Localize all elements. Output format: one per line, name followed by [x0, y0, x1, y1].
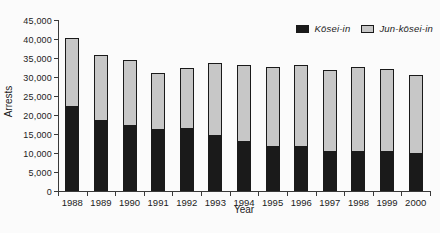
- bar-segment-jun-kosei-in: [94, 55, 108, 121]
- x-tick-mark: [201, 192, 202, 196]
- bar-segment-kosei-in: [323, 152, 337, 191]
- y-tick-mark: [54, 77, 58, 78]
- bar-segment-jun-kosei-in: [123, 60, 137, 126]
- x-tick-mark: [144, 192, 145, 196]
- y-tick-label: 15,000: [10, 130, 52, 140]
- x-tick-mark: [430, 192, 431, 196]
- y-tick-label: 45,000: [10, 16, 52, 26]
- bar-segment-jun-kosei-in: [237, 65, 251, 143]
- y-tick-mark: [54, 39, 58, 40]
- x-axis-line: [58, 191, 431, 192]
- bar-segment-jun-kosei-in: [323, 70, 337, 152]
- x-tick-mark: [115, 192, 116, 196]
- y-tick-mark: [54, 172, 58, 173]
- y-tick-label: 35,000: [10, 54, 52, 64]
- x-tick-mark: [287, 192, 288, 196]
- y-tick-label: 40,000: [10, 35, 52, 45]
- x-tick-mark: [230, 192, 231, 196]
- y-tick-label: 30,000: [10, 73, 52, 83]
- bar-segment-kosei-in: [294, 147, 308, 191]
- bar-segment-kosei-in: [351, 152, 365, 191]
- arrests-stacked-bar-chart: Kōsei-in Jun-kōsei-in Arrests 05,00010,0…: [0, 0, 440, 233]
- y-tick-label: 0: [10, 187, 52, 197]
- bar-segment-jun-kosei-in: [65, 38, 79, 108]
- y-tick-mark: [54, 115, 58, 116]
- bar-segment-jun-kosei-in: [380, 69, 394, 152]
- y-tick-mark: [54, 153, 58, 154]
- x-axis-title: Year: [184, 204, 304, 215]
- bar-segment-kosei-in: [123, 126, 137, 191]
- bar-segment-kosei-in: [266, 147, 280, 191]
- bar-segment-jun-kosei-in: [208, 63, 222, 136]
- x-tick-label-year: 1991: [144, 197, 173, 208]
- x-tick-mark: [258, 192, 259, 196]
- bar-segment-jun-kosei-in: [180, 68, 194, 130]
- bar-segment-kosei-in: [380, 152, 394, 191]
- bar-segment-kosei-in: [94, 121, 108, 191]
- bar-segment-kosei-in: [237, 142, 251, 191]
- bar-segment-jun-kosei-in: [409, 75, 423, 154]
- bar-segment-kosei-in: [180, 129, 194, 191]
- y-tick-label: 25,000: [10, 92, 52, 102]
- y-tick-label: 5,000: [10, 168, 52, 178]
- x-tick-mark: [401, 192, 402, 196]
- y-tick-label: 20,000: [10, 111, 52, 121]
- x-tick-label-year: 2000: [401, 197, 430, 208]
- x-tick-label-year: 1990: [115, 197, 144, 208]
- x-tick-label-year: 1998: [344, 197, 373, 208]
- y-tick-mark: [54, 20, 58, 21]
- y-tick-mark: [54, 96, 58, 97]
- x-tick-mark: [344, 192, 345, 196]
- bar-segment-kosei-in: [208, 136, 222, 191]
- bar-segment-jun-kosei-in: [151, 73, 165, 130]
- x-tick-mark: [87, 192, 88, 196]
- y-tick-label: 10,000: [10, 149, 52, 159]
- bar-segment-kosei-in: [65, 107, 79, 191]
- x-tick-label-year: 1988: [58, 197, 87, 208]
- x-tick-label-year: 1997: [315, 197, 344, 208]
- bar-segment-kosei-in: [409, 154, 423, 191]
- x-tick-label-year: 1999: [373, 197, 402, 208]
- x-tick-mark: [316, 192, 317, 196]
- plot-area: 05,00010,00015,00020,00025,00030,00035,0…: [0, 0, 440, 233]
- x-tick-mark: [373, 192, 374, 196]
- x-tick-mark: [58, 192, 59, 196]
- bar-segment-jun-kosei-in: [266, 67, 280, 147]
- y-tick-mark: [54, 58, 58, 59]
- bar-segment-kosei-in: [151, 130, 165, 191]
- x-tick-label-year: 1989: [86, 197, 115, 208]
- bar-segment-jun-kosei-in: [294, 65, 308, 146]
- y-axis-line: [58, 20, 59, 192]
- bar-segment-jun-kosei-in: [351, 67, 365, 153]
- y-tick-mark: [54, 134, 58, 135]
- x-tick-mark: [172, 192, 173, 196]
